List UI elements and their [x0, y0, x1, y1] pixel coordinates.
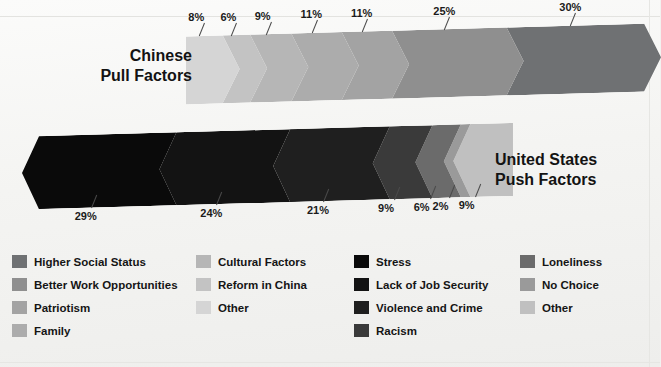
top-rule	[0, 16, 660, 17]
callout-line	[444, 16, 450, 29]
chevron-segment	[22, 132, 176, 209]
legend-item-label: Reform in China	[218, 279, 307, 291]
legend-swatch-icon	[354, 324, 369, 337]
legend-swatch-icon	[12, 255, 27, 268]
legend-item-label: Other	[542, 302, 573, 314]
legend-swatch-icon	[196, 301, 211, 314]
data-label: 2%	[433, 200, 449, 212]
united-states-push-factors-bar	[22, 123, 496, 209]
legend-item-label: Stress	[376, 256, 411, 268]
data-label: 29%	[75, 210, 97, 222]
legend-swatch-icon	[196, 278, 211, 291]
legend-item[interactable]: Cultural Factors	[196, 250, 307, 273]
callout-line	[362, 19, 368, 32]
legend-swatch-icon	[196, 255, 211, 268]
data-label: 25%	[433, 5, 455, 17]
legend-item[interactable]: Better Work Opportunities	[12, 273, 178, 296]
united-states-push-factors-title: United States Push Factors	[495, 150, 597, 190]
callout-line	[199, 23, 205, 36]
legend-item-label: Lack of Job Security	[376, 279, 488, 291]
legend-item[interactable]: Racism	[354, 319, 488, 342]
callout-line	[570, 13, 576, 26]
legend-item-label: No Choice	[542, 279, 599, 291]
legend-swatch-icon	[354, 278, 369, 291]
legend-item-label: Violence and Crime	[376, 302, 483, 314]
data-label: 30%	[559, 1, 581, 13]
chinese-pull-factors-title: Chinese Pull Factors	[100, 46, 192, 86]
chinese-pull-factors-bar	[186, 24, 644, 105]
legend-item[interactable]: No Choice	[520, 273, 602, 296]
legend-swatch-icon	[12, 301, 27, 314]
legend-item-label: Racism	[376, 325, 417, 337]
chevron-segment	[392, 27, 524, 99]
legend-item-label: Patriotism	[34, 302, 90, 314]
data-label: 21%	[307, 204, 329, 216]
legend-column-2: Cultural FactorsReform in ChinaOther	[196, 250, 307, 319]
legend-column-4: LonelinessNo ChoiceOther	[520, 250, 602, 319]
legend: Higher Social StatusBetter Work Opportun…	[12, 250, 652, 350]
data-label: 6%	[414, 201, 430, 213]
data-label: 11%	[301, 8, 322, 20]
callout-line	[311, 20, 317, 33]
legend-column-1: Higher Social StatusBetter Work Opportun…	[12, 250, 178, 342]
legend-item[interactable]: Stress	[354, 250, 488, 273]
legend-item[interactable]: Patriotism	[12, 296, 178, 319]
legend-swatch-icon	[12, 278, 27, 291]
legend-item-label: Better Work Opportunities	[34, 279, 178, 291]
legend-swatch-icon	[354, 255, 369, 268]
legend-item-label: Loneliness	[542, 256, 602, 268]
legend-column-3: StressLack of Job SecurityViolence and C…	[354, 250, 488, 342]
legend-swatch-icon	[520, 278, 535, 291]
legend-swatch-icon	[354, 301, 369, 314]
legend-item[interactable]: Lack of Job Security	[354, 273, 488, 296]
legend-item-label: Other	[218, 302, 249, 314]
legend-item-label: Family	[34, 325, 70, 337]
data-label: 9%	[378, 202, 394, 214]
legend-item-label: Cultural Factors	[218, 256, 306, 268]
legend-swatch-icon	[12, 324, 27, 337]
callout-line	[231, 22, 237, 35]
legend-item[interactable]: Loneliness	[520, 250, 602, 273]
legend-item-label: Higher Social Status	[34, 256, 146, 268]
legend-item[interactable]: Other	[520, 296, 602, 319]
legend-item[interactable]: Violence and Crime	[354, 296, 488, 319]
legend-item[interactable]: Family	[12, 319, 178, 342]
data-label: 9%	[459, 199, 475, 211]
legend-item[interactable]: Higher Social Status	[12, 250, 178, 273]
data-label: 11%	[351, 7, 372, 19]
data-label: 9%	[255, 10, 271, 22]
chevron-segment	[273, 126, 390, 202]
chevron-segment	[159, 129, 290, 206]
bottom-rule	[0, 362, 660, 363]
callout-line	[266, 21, 272, 34]
chevron-segment	[507, 23, 661, 95]
legend-swatch-icon	[520, 301, 535, 314]
legend-item[interactable]: Other	[196, 296, 307, 319]
data-label: 8%	[188, 11, 204, 23]
legend-item[interactable]: Reform in China	[196, 273, 307, 296]
data-label: 24%	[200, 207, 222, 219]
legend-swatch-icon	[520, 255, 535, 268]
data-label: 6%	[220, 11, 236, 23]
